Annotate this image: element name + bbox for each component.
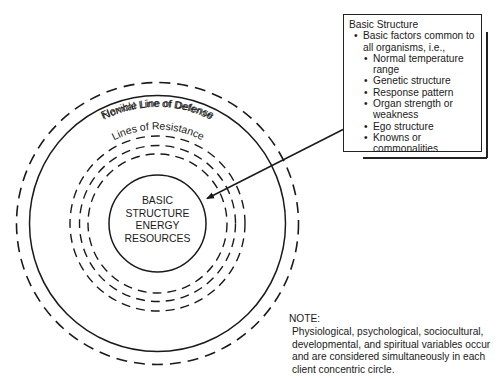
note-label: NOTE:	[289, 313, 499, 326]
info-box-shadow-right	[486, 32, 488, 158]
normal-line-label: Normal Line of Defense	[100, 97, 215, 122]
info-box-subbullet: Ego structure	[349, 121, 481, 132]
info-box-subbullet: Knowns or commonalities	[349, 132, 481, 155]
pointer-arrow	[207, 130, 343, 199]
note-section: NOTE: Physiological, psychological, soci…	[289, 313, 499, 377]
core-label-line: STRUCTURE	[125, 208, 189, 219]
info-box-shadow-bottom	[363, 157, 487, 159]
lines-of-resistance-label: Lines of Resistance	[110, 119, 207, 142]
info-box-subbullet: Normal temperature range	[349, 53, 481, 76]
core-label-line: RESOURCES	[125, 233, 191, 244]
info-box-subbullet: Genetic structure	[349, 75, 481, 86]
core-label-line: ENERGY	[136, 220, 180, 231]
info-box-subbullet: Organ strength or weakness	[349, 98, 481, 121]
core-label-line: BASIC	[142, 195, 174, 206]
info-box-bullet: Basic factors common to all organisms, i…	[349, 30, 481, 53]
basic-structure-info-box: Basic Structure Basic factors common to …	[343, 14, 482, 152]
info-box-title: Basic Structure	[349, 19, 481, 30]
info-box-subbullet: Response pattern	[349, 87, 481, 98]
note-text: Physiological, psychological, sociocultu…	[289, 326, 499, 377]
